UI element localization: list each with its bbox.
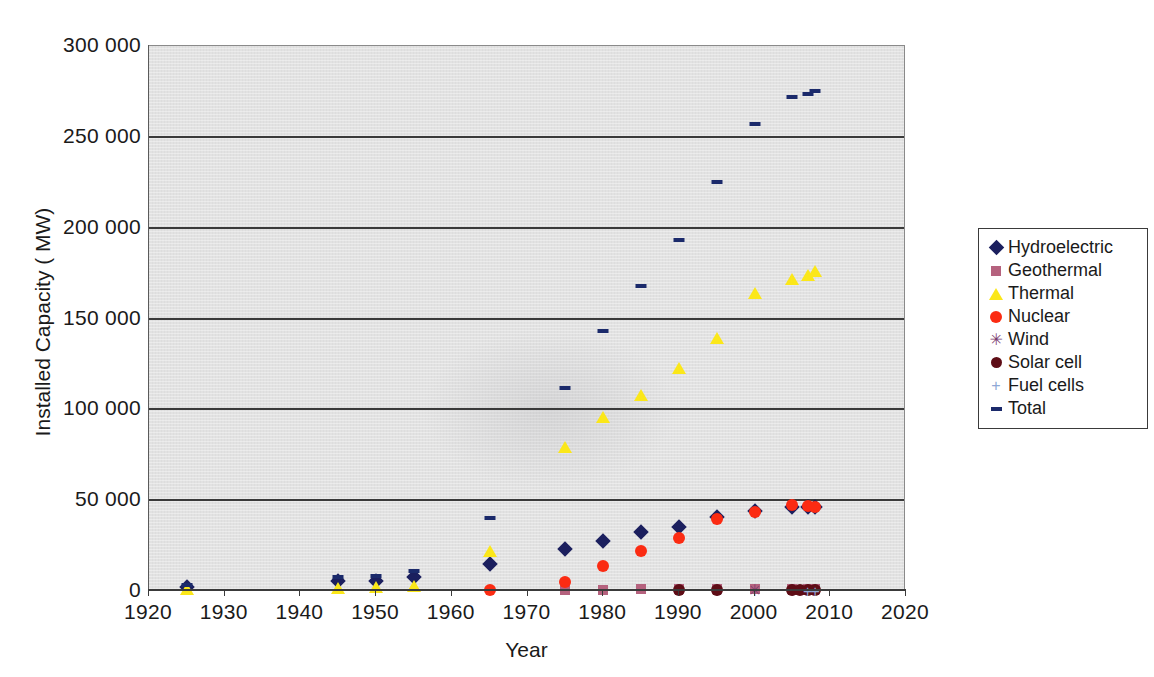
legend-item-label: Solar cell	[1008, 352, 1082, 373]
data-point-thermal	[748, 287, 762, 299]
y-tick-label: 150 000	[63, 306, 141, 330]
dash-icon	[986, 407, 1006, 411]
x-tick-label: 2010	[805, 600, 853, 624]
data-point-thermal	[558, 441, 572, 453]
x-tick-mark	[602, 589, 603, 596]
data-point-nuclear	[559, 576, 571, 588]
data-point-thermal	[808, 265, 822, 277]
data-point-thermal	[785, 273, 799, 285]
legend-item-label: Nuclear	[1008, 306, 1070, 327]
data-point-nuclear	[673, 532, 685, 544]
plot-area: ✳✳✳✳✳++	[148, 45, 905, 590]
legend-item-label: Total	[1008, 398, 1046, 419]
x-tick-mark	[375, 589, 376, 596]
gridline	[149, 408, 904, 410]
circle-icon	[986, 311, 1006, 323]
data-point-total	[673, 238, 684, 242]
data-point-total	[810, 89, 821, 93]
y-tick-label: 250 000	[63, 124, 141, 148]
data-point-hydroelectric	[558, 541, 574, 557]
legend-item-hydroelectric[interactable]: Hydroelectric	[986, 236, 1141, 259]
y-axis-tick-labels: 050 000100 000150 000200 000250 000300 0…	[0, 0, 141, 677]
x-tick-label: 1920	[124, 600, 172, 624]
data-point-hydroelectric	[595, 533, 611, 549]
data-point-total	[484, 516, 495, 520]
x-tick-mark	[451, 589, 452, 596]
data-point-total	[560, 386, 571, 390]
legend-item-nuclear[interactable]: Nuclear	[986, 305, 1141, 328]
legend-item-label: Thermal	[1008, 283, 1074, 304]
data-point-thermal	[483, 545, 497, 557]
x-tick-label: 2000	[730, 600, 778, 624]
legend-item-fuel-cells[interactable]: +Fuel cells	[986, 374, 1141, 397]
asterisk-icon: ✳	[986, 333, 1006, 346]
x-tick-label: 1970	[503, 600, 551, 624]
solar-icon	[986, 357, 1006, 368]
plus-icon: +	[986, 379, 1006, 392]
x-tick-label: 1990	[654, 600, 702, 624]
triangle-icon	[986, 288, 1006, 300]
data-point-total	[636, 284, 647, 288]
y-axis-title: Installed Capacity ( MW)	[31, 157, 55, 487]
data-point-thermal	[596, 411, 610, 423]
data-point-total	[598, 329, 609, 333]
legend-item-thermal[interactable]: Thermal	[986, 282, 1141, 305]
x-tick-mark	[224, 589, 225, 596]
data-point-nuclear	[809, 501, 821, 513]
data-point-nuclear	[749, 506, 761, 518]
x-tick-mark	[299, 589, 300, 596]
legend-item-label: Hydroelectric	[1008, 237, 1113, 258]
gridline	[149, 318, 904, 320]
diamond-icon	[986, 242, 1006, 253]
legend-item-total[interactable]: Total	[986, 397, 1141, 420]
data-point-nuclear	[711, 513, 723, 525]
chart-legend: HydroelectricGeothermalThermalNuclear✳Wi…	[978, 228, 1148, 429]
x-tick-mark	[754, 589, 755, 596]
x-tick-label: 1940	[275, 600, 323, 624]
y-tick-label: 200 000	[63, 215, 141, 239]
x-tick-label: 1930	[200, 600, 248, 624]
legend-item-geothermal[interactable]: Geothermal	[986, 259, 1141, 282]
x-tick-label: 2020	[881, 600, 929, 624]
data-point-total	[711, 180, 722, 184]
x-tick-mark	[678, 589, 679, 596]
y-tick-label: 50 000	[75, 487, 141, 511]
data-point-nuclear	[597, 560, 609, 572]
data-point-hydroelectric	[482, 556, 498, 572]
data-point-thermal	[672, 362, 686, 374]
gridline	[149, 227, 904, 229]
y-axis-line	[148, 45, 149, 591]
data-point-thermal	[710, 332, 724, 344]
scatter-chart: ✳✳✳✳✳++ 050 000100 000150 000200 000250 …	[0, 0, 1154, 677]
data-point-thermal	[369, 581, 383, 593]
legend-item-label: Fuel cells	[1008, 375, 1084, 396]
square-icon	[986, 266, 1006, 276]
legend-item-solar-cell[interactable]: Solar cell	[986, 351, 1141, 374]
data-point-total	[371, 574, 382, 578]
data-point-total	[787, 95, 798, 99]
x-tick-mark	[829, 589, 830, 596]
x-tick-mark	[148, 589, 149, 596]
data-point-total	[408, 569, 419, 573]
x-axis-title: Year	[148, 638, 905, 662]
data-point-nuclear	[635, 545, 647, 557]
x-tick-mark	[905, 589, 906, 596]
gridline	[149, 136, 904, 138]
data-point-thermal	[634, 389, 648, 401]
data-point-nuclear	[786, 499, 798, 511]
x-tick-mark	[527, 589, 528, 596]
legend-item-label: Wind	[1008, 329, 1049, 350]
x-tick-label: 1950	[351, 600, 399, 624]
y-tick-label: 0	[129, 578, 141, 602]
x-tick-label: 1960	[427, 600, 475, 624]
data-point-total	[333, 575, 344, 579]
data-point-hydroelectric	[633, 524, 649, 540]
y-tick-label: 300 000	[63, 33, 141, 57]
y-tick-label: 100 000	[63, 396, 141, 420]
legend-item-label: Geothermal	[1008, 260, 1102, 281]
data-point-total	[749, 122, 760, 126]
legend-item-wind[interactable]: ✳Wind	[986, 328, 1141, 351]
data-point-total	[181, 583, 192, 587]
x-tick-label: 1980	[578, 600, 626, 624]
